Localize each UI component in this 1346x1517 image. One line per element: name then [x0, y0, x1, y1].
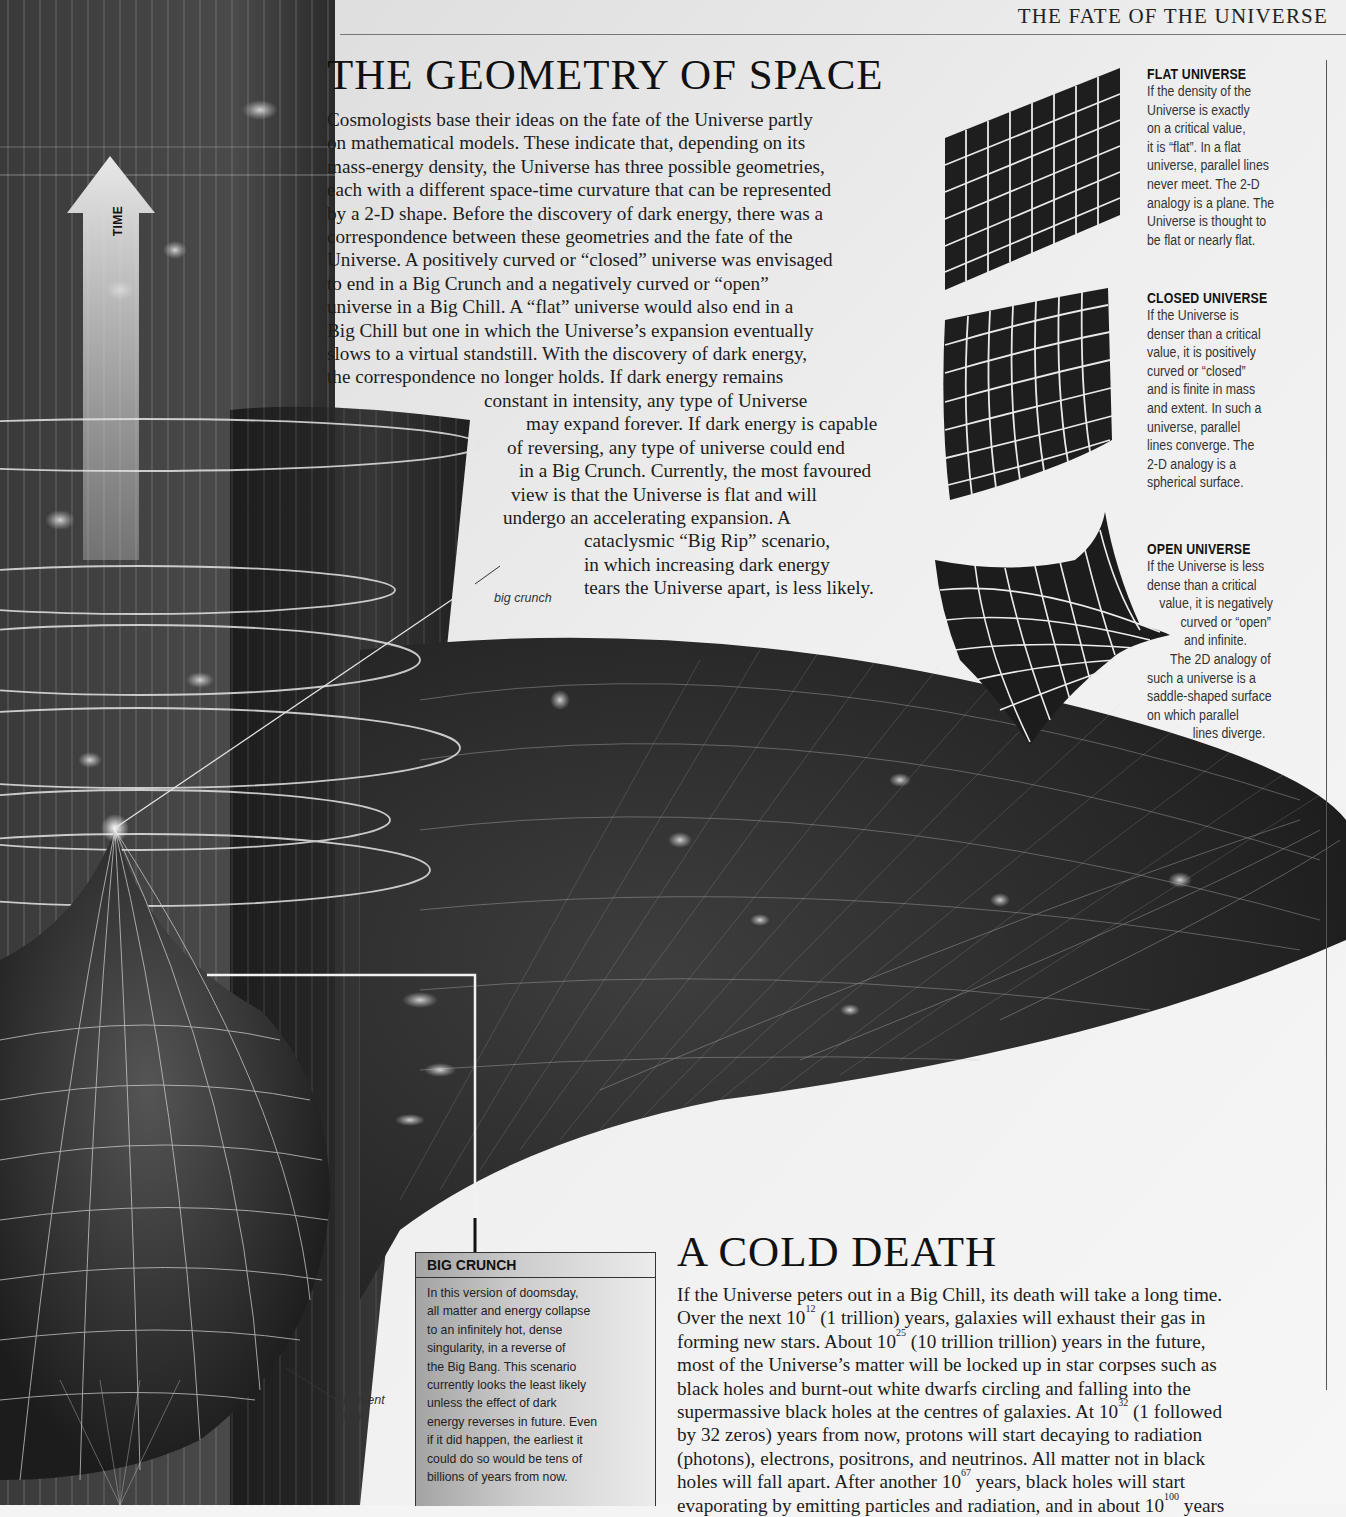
caption-line: value, it is negatively — [1159, 594, 1273, 613]
caption-line: universe, parallel — [1147, 418, 1267, 437]
caption-line: If the density of the — [1147, 82, 1274, 101]
open-universe-text: If the Universe is less dense than a cri… — [1147, 557, 1273, 743]
paragraph-line: by 32 zeros) years from now, protons wil… — [677, 1423, 1224, 1446]
paragraph-line: holes will fall apart. After another 106… — [677, 1470, 1224, 1493]
paragraph-line: universe in a Big Chill. A “flat” univer… — [327, 295, 877, 318]
caption-line: it is “flat”. In a flat — [1147, 138, 1274, 157]
caption-line: be flat or nearly flat. — [1147, 231, 1274, 250]
paragraph-line: Universe. A positively curved or “closed… — [327, 248, 877, 271]
caption-line: If the Universe is — [1147, 306, 1267, 325]
caption-line: lines converge. The — [1147, 436, 1267, 455]
paragraph-line: each with a different space-time curvatu… — [327, 178, 877, 201]
header-rule — [340, 34, 1346, 35]
paragraph-line: in a Big Crunch. Currently, the most fav… — [519, 459, 877, 482]
caption-line: never meet. The 2-D — [1147, 175, 1274, 194]
paragraph-line: most of the Universe’s matter will be lo… — [677, 1353, 1224, 1376]
paragraph-line: If the Universe peters out in a Big Chil… — [677, 1283, 1224, 1306]
paragraph-line: slows to a virtual standstill. With the … — [327, 342, 877, 365]
cold-death-paragraph: If the Universe peters out in a Big Chil… — [677, 1283, 1224, 1517]
time-arrow-icon — [67, 156, 155, 560]
callout-line: energy reverses in future. Even — [427, 1413, 632, 1431]
paragraph-line: (photons), electrons, positrons, and neu… — [677, 1447, 1224, 1470]
paragraph-line: tears the Universe apart, is less likely… — [584, 576, 877, 599]
big-crunch-text: In this version of doomsday, all matter … — [416, 1278, 655, 1486]
flat-universe-title: FLAT UNIVERSE — [1147, 66, 1274, 82]
running-head: THE FATE OF THE UNIVERSE — [1018, 4, 1328, 29]
closed-universe-caption: CLOSED UNIVERSE If the Universe is dense… — [1147, 290, 1284, 492]
closed-universe-title: CLOSED UNIVERSE — [1147, 290, 1267, 306]
caption-line: universe, parallel lines — [1147, 156, 1274, 175]
callout-line: all matter and energy collapse — [427, 1302, 632, 1320]
paragraph-line: Big Chill but one in which the Universe’… — [327, 319, 877, 342]
paragraph-line: in which increasing dark energy — [584, 553, 877, 576]
caption-line: dense than a critical — [1147, 576, 1273, 595]
caption-line: on a critical value, — [1147, 119, 1274, 138]
caption-line: Universe is exactly — [1147, 101, 1274, 120]
caption-line: on which parallel — [1147, 706, 1273, 725]
caption-line: spherical surface. — [1147, 473, 1267, 492]
section-title-cold-death: A COLD DEATH — [677, 1227, 997, 1276]
paragraph-line: Cosmologists base their ideas on the fat… — [327, 108, 877, 131]
caption-line: such a universe is a — [1147, 669, 1273, 688]
callout-line: could do so would be tens of — [427, 1450, 632, 1468]
paragraph-line: forming new stars. About 1025 (10 trilli… — [677, 1330, 1224, 1353]
flat-universe-text: If the density of the Universe is exactl… — [1147, 82, 1274, 249]
callout-line: if it did happen, the earliest it — [427, 1431, 632, 1449]
present-day-label-line: day — [343, 1407, 385, 1421]
paragraph-line: to end in a Big Crunch and a negatively … — [327, 272, 877, 295]
paragraph-line: correspondence between these geometries … — [327, 225, 877, 248]
paragraph-line: cataclysmic “Big Rip” scenario, — [584, 529, 877, 552]
caption-line: curved or “open” — [1180, 613, 1273, 632]
caption-line: curved or “closed” — [1147, 362, 1267, 381]
present-day-label-line: present — [343, 1393, 385, 1407]
callout-line: the Big Bang. This scenario — [427, 1358, 632, 1376]
big-crunch-label: big crunch — [494, 591, 552, 605]
column-rule — [1326, 60, 1327, 1390]
caption-line: analogy is a plane. The — [1147, 194, 1274, 213]
caption-line: and is finite in mass — [1147, 380, 1267, 399]
callout-line: singularity, in a reverse of — [427, 1339, 632, 1357]
paragraph-line: supermassive black holes at the centres … — [677, 1400, 1224, 1423]
callout-line: unless the effect of dark — [427, 1394, 632, 1412]
caption-line: and infinite. — [1184, 631, 1273, 650]
open-universe-caption: OPEN UNIVERSE If the Universe is less de… — [1147, 541, 1290, 743]
paragraph-line: of reversing, any type of universe could… — [507, 436, 877, 459]
caption-line: Universe is thought to — [1147, 212, 1274, 231]
paragraph-line: on mathematical models. These indicate t… — [327, 131, 877, 154]
caption-line: If the Universe is less — [1147, 557, 1273, 576]
paragraph-line: the correspondence no longer holds. If d… — [327, 365, 877, 388]
paragraph-line: Over the next 1012 (1 trillion) years, g… — [677, 1306, 1224, 1329]
section-title-geometry: THE GEOMETRY OF SPACE — [327, 50, 884, 99]
paragraph-line: by a 2-D shape. Before the discovery of … — [327, 202, 877, 225]
paragraph-line: may expand forever. If dark energy is ca… — [526, 412, 877, 435]
paragraph-line: evaporating by emitting particles and ra… — [677, 1494, 1224, 1517]
callout-line: billions of years from now. — [427, 1468, 632, 1486]
caption-line: and extent. In such a — [1147, 399, 1267, 418]
big-crunch-callout: BIG CRUNCH In this version of doomsday, … — [415, 1252, 656, 1506]
open-universe-title: OPEN UNIVERSE — [1147, 541, 1273, 557]
caption-line: lines diverge. — [1193, 724, 1273, 743]
big-crunch-title: BIG CRUNCH — [416, 1253, 655, 1278]
paragraph-line: view is that the Universe is flat and wi… — [511, 483, 877, 506]
caption-line: The 2D analogy of — [1170, 650, 1273, 669]
closed-universe-text: If the Universe is denser than a critica… — [1147, 306, 1267, 492]
caption-line: 2-D analogy is a — [1147, 455, 1267, 474]
geometry-paragraph: Cosmologists base their ideas on the fat… — [327, 108, 877, 600]
paragraph-line: black holes and burnt-out white dwarfs c… — [677, 1377, 1224, 1400]
flat-universe-caption: FLAT UNIVERSE If the density of the Univ… — [1147, 66, 1292, 249]
paragraph-line: constant in intensity, any type of Unive… — [484, 389, 877, 412]
caption-line: value, it is positively — [1147, 343, 1267, 362]
callout-line: currently looks the least likely — [427, 1376, 632, 1394]
callout-line: In this version of doomsday, — [427, 1284, 632, 1302]
paragraph-line: mass-energy density, the Universe has th… — [327, 155, 877, 178]
paragraph-line: undergo an accelerating expansion. A — [503, 506, 877, 529]
present-day-label: present day — [343, 1393, 385, 1421]
caption-line: saddle-shaped surface — [1147, 687, 1273, 706]
callout-line: to an infinitely hot, dense — [427, 1321, 632, 1339]
caption-line: denser than a critical — [1147, 325, 1267, 344]
